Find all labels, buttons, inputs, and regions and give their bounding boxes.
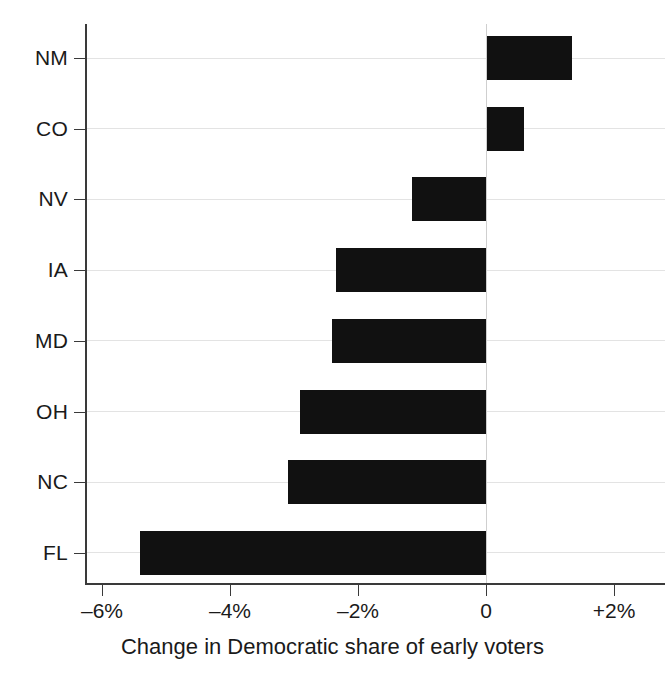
y-axis-tick-label: NV	[38, 188, 68, 209]
bar	[336, 248, 486, 292]
x-axis-tick	[230, 585, 231, 596]
x-axis-tick	[614, 585, 615, 596]
x-axis-title: Change in Democratic share of early vote…	[0, 634, 665, 660]
y-axis-tick-label: NM	[35, 47, 68, 68]
x-axis-tick	[102, 585, 103, 596]
bar	[300, 390, 486, 434]
y-axis-spine	[85, 24, 87, 583]
bar	[332, 319, 486, 363]
x-axis-tick-label: –6%	[81, 599, 123, 623]
y-axis-tick-label: OH	[36, 401, 68, 422]
bar	[140, 531, 486, 575]
bar	[486, 107, 524, 151]
bar	[486, 36, 572, 80]
bar-chart: NMCONVIAMDOHNCFL –6%–4%–2%0+2% Change in…	[0, 0, 665, 684]
x-axis-tick-label: +2%	[593, 599, 636, 623]
y-axis-tick-label: CO	[36, 118, 68, 139]
y-axis-tick-label: FL	[43, 542, 68, 563]
y-axis-tick-label: IA	[48, 259, 68, 280]
bar	[412, 177, 486, 221]
x-axis-tick-label: 0	[480, 599, 492, 623]
x-axis-tick-label: –4%	[209, 599, 251, 623]
x-axis-tick	[486, 585, 487, 596]
gridline	[87, 199, 665, 200]
x-axis-tick-label: –2%	[337, 599, 379, 623]
x-axis-tick	[358, 585, 359, 596]
y-axis-tick-label: MD	[35, 330, 68, 351]
gridline	[87, 128, 665, 129]
x-axis-spine	[85, 583, 665, 585]
y-axis-tick-label: NC	[37, 471, 68, 492]
zero-reference-line	[486, 24, 487, 583]
bar	[288, 460, 486, 504]
gridline	[87, 58, 665, 59]
